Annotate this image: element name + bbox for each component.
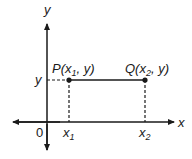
coordinate-diagram: y x 0 y P(x1, y) Q(x2, y) x1 x2 — [0, 0, 192, 159]
point-q-label: Q(x2, y) — [125, 61, 169, 78]
y-axis-label: y — [43, 2, 52, 17]
point-p-label: P(x1, y) — [52, 61, 95, 78]
x-axis-label: x — [177, 115, 185, 130]
x1-tick-label: x1 — [62, 125, 75, 142]
point-p — [66, 77, 71, 82]
origin-label: 0 — [36, 125, 43, 140]
point-q — [142, 77, 147, 82]
x2-tick-label: x2 — [138, 125, 151, 142]
y-tick-label: y — [34, 72, 43, 87]
